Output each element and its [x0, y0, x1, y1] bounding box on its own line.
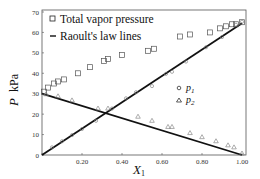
svg-text:P: P — [6, 98, 21, 107]
raoult-line — [42, 23, 242, 155]
total-pressure-point — [218, 26, 223, 31]
p2-point — [96, 106, 101, 110]
p2-point — [214, 139, 219, 143]
svg-text:kPa: kPa — [7, 73, 21, 92]
total-pressure-point — [178, 34, 183, 39]
square-marker-icon — [50, 16, 55, 21]
total-pressure-point — [224, 24, 229, 29]
p2-point — [150, 118, 155, 122]
total-pressure-point — [146, 48, 151, 53]
raoult-law-lines — [42, 23, 242, 155]
total-pressure-point — [120, 52, 125, 57]
raoult-line — [42, 94, 242, 155]
p2-point — [136, 114, 141, 118]
p2-point — [70, 98, 75, 102]
y-tick-label: 50 — [32, 49, 40, 57]
diamond-marker-icon — [177, 86, 181, 90]
total-pressure-point — [76, 71, 81, 76]
x-tick-label: 0.40 — [116, 158, 129, 166]
p1-point — [150, 84, 153, 87]
p2-point — [200, 135, 205, 139]
y-tick-label: 70 — [32, 9, 40, 17]
total-pressure-point — [88, 65, 93, 70]
p2-point — [166, 124, 171, 128]
vapor-pressure-chart: 010203040506070 0.200.400.600.801.00 Tot… — [0, 0, 260, 179]
p2-point — [226, 143, 231, 147]
p2-label: p2 — [185, 94, 195, 107]
p2-point — [188, 131, 193, 135]
total-pressure-point — [208, 30, 213, 35]
total-pressure-point — [62, 77, 67, 82]
legend: Total vapor pressure Raoult's law lines — [50, 13, 154, 42]
y-tick-label: 60 — [32, 29, 40, 37]
x-tick-label: 0.20 — [76, 158, 89, 166]
p1-point — [170, 70, 173, 73]
x-tick-label: 1.00 — [236, 158, 249, 166]
p1-point — [234, 23, 237, 26]
p2-point — [232, 145, 237, 149]
y-tick-label: 30 — [32, 90, 40, 98]
p2-point — [170, 124, 175, 128]
y-tick-label: 20 — [32, 111, 40, 119]
total-pressure-point — [188, 32, 193, 37]
y-axis-label: P kPa — [6, 73, 21, 107]
x-tick-label: 0.80 — [196, 158, 209, 166]
y-tick-label: 0 — [36, 152, 40, 160]
p2-point — [56, 94, 61, 98]
p1-point — [240, 20, 243, 23]
p2-point — [106, 106, 111, 110]
inset-legend: p1 p2 — [177, 82, 196, 107]
y-tick-label: 10 — [32, 131, 40, 139]
total-pressure-point — [152, 46, 157, 51]
triangle-marker-icon — [177, 98, 182, 102]
x-axis-label: X1 — [132, 162, 145, 178]
y-tick-label: 40 — [32, 70, 40, 78]
legend-raoult-label: Raoult's law lines — [60, 30, 142, 42]
x-tick-label: 0.60 — [156, 158, 169, 166]
legend-total-label: Total vapor pressure — [60, 13, 154, 26]
